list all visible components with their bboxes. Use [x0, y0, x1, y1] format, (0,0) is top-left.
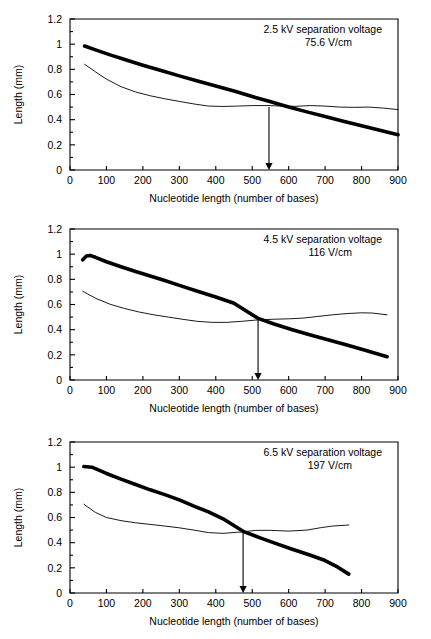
y-tick-label: 0.8 [47, 273, 62, 285]
series-thick-descending-curve [84, 467, 349, 575]
y-tick-label: 0.6 [47, 298, 62, 310]
y-tick-label: 1.2 [47, 13, 62, 25]
x-tick-label: 300 [171, 174, 189, 186]
y-tick-label: 0.2 [47, 139, 62, 151]
annotation-voltage-line1: 6.5 kV separation voltage [264, 446, 383, 458]
series-thin-plateau-curve [83, 291, 387, 322]
x-tick-label: 200 [134, 174, 152, 186]
y-tick-label: 1.2 [47, 436, 62, 448]
x-tick-label: 0 [67, 384, 73, 396]
y-tick-label: 0.8 [47, 486, 62, 498]
chart-panel-2: 010020030040050060070080090000.20.40.60.… [0, 423, 431, 636]
x-tick-label: 800 [353, 384, 371, 396]
x-tick-label: 300 [171, 597, 189, 609]
x-tick-label: 200 [134, 384, 152, 396]
y-tick-label: 0.6 [47, 511, 62, 523]
annotation-voltage-line1: 4.5 kV separation voltage [264, 233, 383, 245]
x-tick-label: 600 [280, 597, 298, 609]
x-tick-label: 900 [389, 174, 407, 186]
x-tick-label: 400 [207, 174, 225, 186]
chart-panel-1: 010020030040050060070080090000.20.40.60.… [0, 210, 431, 423]
x-tick-label: 600 [280, 174, 298, 186]
y-tick-label: 0.4 [47, 323, 62, 335]
y-tick-label: 0.8 [47, 63, 62, 75]
y-axis-title: Length (mm) [12, 275, 24, 335]
x-tick-label: 100 [98, 597, 116, 609]
y-axis-title: Length (mm) [12, 488, 24, 548]
x-tick-label: 100 [98, 174, 116, 186]
y-tick-label: 0.2 [47, 562, 62, 574]
annotation-voltage-line1: 2.5 kV separation voltage [264, 23, 383, 35]
y-tick-label: 1.2 [47, 223, 62, 235]
y-tick-label: 0 [56, 164, 62, 176]
x-axis-title: Nucleotide length (number of bases) [149, 192, 318, 204]
x-tick-label: 500 [243, 384, 261, 396]
x-tick-label: 200 [134, 597, 152, 609]
x-tick-label: 800 [353, 597, 371, 609]
chart-svg-0: 010020030040050060070080090000.20.40.60.… [0, 0, 431, 213]
chart-svg-2: 010020030040050060070080090000.20.40.60.… [0, 423, 431, 636]
y-tick-label: 0.4 [47, 113, 62, 125]
annotation-arrow-head [265, 163, 272, 170]
x-axis-title: Nucleotide length (number of bases) [149, 615, 318, 627]
x-tick-label: 900 [389, 384, 407, 396]
series-thin-plateau-curve [85, 64, 398, 109]
y-tick-label: 0 [56, 587, 62, 599]
x-tick-label: 900 [389, 597, 407, 609]
x-tick-label: 0 [67, 597, 73, 609]
y-tick-label: 0 [56, 374, 62, 386]
series-thick-descending-curve [83, 255, 387, 356]
y-tick-label: 1 [56, 248, 62, 260]
annotation-arrow-head [240, 586, 247, 593]
x-tick-label: 700 [316, 384, 334, 396]
x-tick-label: 400 [207, 384, 225, 396]
x-tick-label: 800 [353, 174, 371, 186]
x-tick-label: 0 [67, 174, 73, 186]
chart-svg-1: 010020030040050060070080090000.20.40.60.… [0, 210, 431, 423]
annotation-voltage-line2: 116 V/cm [308, 246, 352, 258]
x-tick-label: 300 [171, 384, 189, 396]
x-tick-label: 700 [316, 597, 334, 609]
annotation-arrow-head [254, 373, 261, 380]
y-tick-label: 0.4 [47, 536, 62, 548]
chart-panel-0: 010020030040050060070080090000.20.40.60.… [0, 0, 431, 213]
y-axis-title: Length (mm) [12, 65, 24, 125]
x-axis-title: Nucleotide length (number of bases) [149, 402, 318, 414]
series-thin-plateau-curve [84, 504, 349, 533]
y-tick-label: 1 [56, 461, 62, 473]
figure-container: 010020030040050060070080090000.20.40.60.… [0, 0, 431, 639]
x-tick-label: 100 [98, 384, 116, 396]
y-tick-label: 0.6 [47, 88, 62, 100]
x-tick-label: 500 [243, 597, 261, 609]
x-tick-label: 500 [243, 174, 261, 186]
annotation-voltage-line2: 197 V/cm [308, 459, 353, 471]
x-tick-label: 600 [280, 384, 298, 396]
y-tick-label: 0.2 [47, 349, 62, 361]
annotation-voltage-line2: 75.6 V/cm [305, 36, 353, 48]
x-tick-label: 700 [316, 174, 334, 186]
x-tick-label: 400 [207, 597, 225, 609]
y-tick-label: 1 [56, 38, 62, 50]
